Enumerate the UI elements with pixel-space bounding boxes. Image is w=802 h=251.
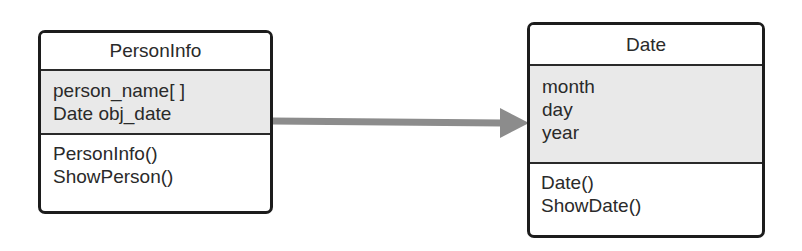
attributes-section: person_name[ ] Date obj_date [41,71,270,135]
attributes-section: month day year [530,66,762,164]
methods-section: PersonInfo() ShowPerson() [41,135,270,188]
class-date[interactable]: Date month day year Date() ShowDate() [527,22,765,238]
method: ShowPerson() [53,165,270,188]
method: ShowDate() [541,194,762,217]
attribute: Date obj_date [53,102,270,125]
class-title: Date [530,25,762,66]
arrow-line [272,121,502,123]
class-title: PersonInfo [41,33,270,71]
attribute: day [542,98,762,121]
arrowhead-icon [500,108,529,138]
attribute: year [542,121,762,144]
method: Date() [541,171,762,194]
class-personinfo[interactable]: PersonInfo person_name[ ] Date obj_date … [38,30,273,214]
attribute: person_name[ ] [53,79,270,102]
attribute: month [542,75,762,98]
methods-section: Date() ShowDate() [530,164,762,217]
method: PersonInfo() [53,142,270,165]
